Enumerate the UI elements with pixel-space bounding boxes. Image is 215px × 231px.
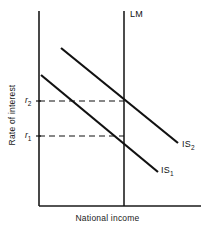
is1-curve [41,75,158,172]
lm-curve-label-text: LM [130,9,143,19]
is-lm-diagram: Rate of interest National income LM IS2 … [0,0,215,231]
is2-curve [61,48,178,143]
y-tick-label-r1: r1 [25,130,31,142]
y-axis-label: Rate of interest [0,0,23,231]
y-tick-label-r2-subscript: 2 [28,100,32,107]
is2-curve-label-subscript: 2 [191,144,195,151]
is1-curve-label-text: IS [161,165,170,175]
y-tick-label-r2: r2 [25,95,31,107]
x-axis-label: National income [0,213,215,223]
is2-curve-label-text: IS [182,139,191,149]
is2-curve-label: IS2 [182,139,195,151]
is1-curve-label: IS1 [161,165,174,177]
chart-canvas [0,0,215,231]
x-axis-label-text: National income [76,213,140,223]
is1-curve-label-subscript: 1 [170,170,174,177]
y-axis-label-text: Rate of interest [7,85,17,146]
lm-curve-label: LM [130,9,143,19]
y-tick-label-r1-subscript: 1 [28,135,32,142]
